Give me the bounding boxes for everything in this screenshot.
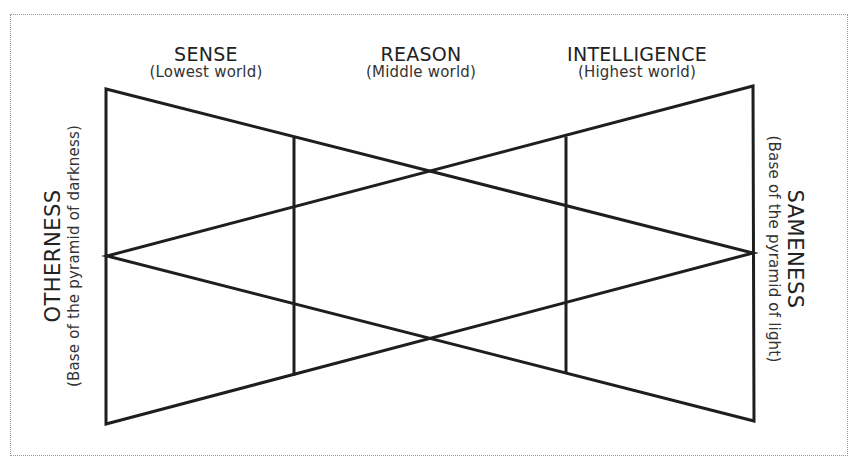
column-reason-title: REASON (366, 44, 476, 64)
column-sense-subtitle: (Lowest world) (149, 64, 262, 81)
column-intelligence-title: INTELLIGENCE (567, 44, 707, 64)
column-sense: SENSE (Lowest world) (149, 44, 262, 81)
otherness-title: OTHERNESS (41, 125, 65, 387)
column-reason-subtitle: (Middle world) (366, 64, 476, 81)
column-intelligence-subtitle: (Highest world) (567, 64, 707, 81)
column-reason: REASON (Middle world) (366, 44, 476, 81)
side-label-sameness: SAMENESS (Base of the pyramid of light) (765, 136, 807, 363)
sameness-subtitle: (Base of the pyramid of light) (765, 136, 783, 363)
sameness-title: SAMENESS (783, 136, 807, 363)
column-intelligence: INTELLIGENCE (Highest world) (567, 44, 707, 81)
pyramid-of-light (107, 86, 754, 421)
side-label-otherness: OTHERNESS (Base of the pyramid of darkne… (41, 125, 83, 387)
otherness-subtitle: (Base of the pyramid of darkness) (65, 125, 83, 387)
pyramid-of-darkness (106, 89, 753, 424)
column-sense-title: SENSE (149, 44, 262, 64)
